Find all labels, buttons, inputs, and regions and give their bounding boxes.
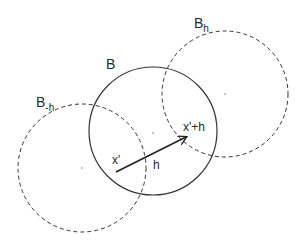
vector-h-arrow — [116, 137, 186, 172]
center-dot-b-minus-h — [81, 167, 83, 169]
label-h: h — [153, 158, 160, 172]
diagram-canvas: B Bh B-h x' h x'+h — [0, 0, 301, 242]
label-b-plus-h: Bh — [194, 15, 209, 34]
center-dot-b-plus-h — [224, 93, 226, 95]
center-dot-b — [152, 132, 154, 134]
label-x-prime: x' — [112, 153, 120, 167]
label-x-prime-plus-h: x'+h — [183, 120, 205, 134]
label-b-minus-h: B-h — [36, 94, 54, 113]
label-b: B — [106, 56, 115, 72]
